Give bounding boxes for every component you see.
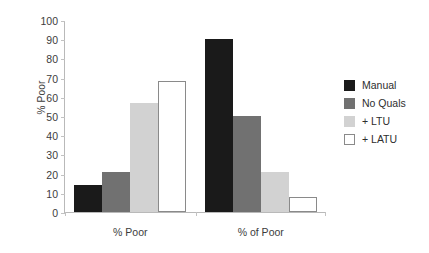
- y-axis-tick-label: 10: [46, 188, 58, 200]
- legend-swatch-icon: [344, 98, 355, 109]
- y-axis-tick-label: 40: [46, 130, 58, 142]
- y-axis-tick-label: 80: [46, 53, 58, 65]
- legend-label: + LTU: [362, 115, 390, 127]
- bar-latu-group-2: [289, 197, 317, 212]
- legend-swatch-icon: [344, 134, 355, 145]
- x-axis-tick: [196, 212, 197, 216]
- x-axis-tick: [325, 212, 326, 216]
- bar-latu-group-1: [158, 81, 186, 212]
- legend-swatch-icon: [344, 116, 355, 127]
- legend-item[interactable]: + LTU: [344, 112, 426, 130]
- x-axis-group-label: % of Poor: [238, 226, 284, 238]
- legend-label: No Quals: [362, 97, 406, 109]
- bar-chart: % Poor 0102030405060708090100 % Poor% of…: [0, 0, 429, 253]
- legend-item[interactable]: Manual: [344, 76, 426, 94]
- y-axis-tick-label: 50: [46, 111, 58, 123]
- y-axis-tick-label: 100: [40, 15, 58, 27]
- bar-no-quals-group-2: [233, 116, 261, 212]
- y-axis-tick-label: 30: [46, 149, 58, 161]
- plot-area: 0102030405060708090100 % Poor% of Poor: [64, 21, 325, 213]
- legend-item[interactable]: + LATU: [344, 130, 426, 148]
- legend-label: + LATU: [362, 133, 397, 145]
- legend-swatch-icon: [344, 80, 355, 91]
- bar-no-quals-group-1: [102, 172, 130, 212]
- bar-manual-group-1: [74, 185, 102, 212]
- legend-item[interactable]: No Quals: [344, 94, 426, 112]
- y-axis-tick-label: 60: [46, 92, 58, 104]
- bar-ltu-group-1: [130, 103, 158, 212]
- legend-label: Manual: [362, 79, 396, 91]
- x-axis-tick: [65, 212, 66, 216]
- y-axis-label: % Poor: [36, 63, 47, 133]
- y-axis-tick-label: 70: [46, 73, 58, 85]
- bar-manual-group-2: [205, 39, 233, 212]
- bar-ltu-group-2: [261, 172, 289, 212]
- legend: ManualNo Quals+ LTU+ LATU: [344, 76, 426, 148]
- y-axis-tick-label: 90: [46, 34, 58, 46]
- y-axis-tick-label: 0: [52, 207, 58, 219]
- bars-layer: [65, 21, 325, 212]
- x-axis-group-label: % Poor: [113, 226, 147, 238]
- y-axis-tick-label: 20: [46, 169, 58, 181]
